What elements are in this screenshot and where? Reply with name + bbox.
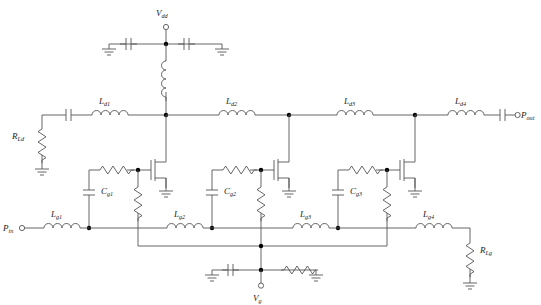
vdd-bias-network: Vdd <box>102 8 229 115</box>
schematic-canvas: Vdd RLd Ld1 Ld2 <box>0 0 541 305</box>
capacitor-cg3 <box>332 184 344 201</box>
ground-vg-left <box>205 270 219 281</box>
capacitor-cg2 <box>206 184 218 201</box>
vdd-terminal-node[interactable] <box>163 24 168 29</box>
pin-label: Pin <box>2 223 13 234</box>
ground-m3-source <box>408 186 422 197</box>
bias-bus-center-node <box>259 244 263 248</box>
inductor-ld2 <box>215 111 259 116</box>
dc-block-cap-output <box>494 109 511 121</box>
dc-block-cap-input <box>60 109 77 121</box>
vdd-label: Vdd <box>156 8 169 19</box>
inductor-lg2 <box>163 224 207 229</box>
drain-artificial-line: RLd Ld1 Ld2 Ld3 Ld4 <box>11 96 535 175</box>
rld-label: RLd <box>11 131 25 142</box>
amplifier-stage-3: Cg3 <box>332 152 422 246</box>
inductor-ld4 <box>444 111 488 116</box>
capacitor-cg1 <box>83 184 95 201</box>
vg-label: Vg <box>253 293 262 304</box>
ld1-label: Ld1 <box>98 96 110 107</box>
ground-vdd-left <box>102 44 116 55</box>
ground-m2-source <box>282 186 296 197</box>
lg4-label: Lg4 <box>422 209 434 220</box>
amplifier-stage-1: Cg1 <box>83 152 173 246</box>
ld2-label: Ld2 <box>225 96 237 107</box>
vg-terminal-node[interactable] <box>258 283 263 288</box>
ld4-label: Ld4 <box>454 96 466 107</box>
transistor-m3 <box>400 152 415 188</box>
rlg-label: RLg <box>479 245 492 256</box>
gate-artificial-line: Pin Lg1 Lg2 Lg3 Lg4 RLg <box>2 209 492 289</box>
ld3-label: Ld3 <box>343 96 355 107</box>
inductor-lg3 <box>289 224 333 229</box>
cg1-label: Cg1 <box>101 186 113 197</box>
ground-rld <box>35 164 49 175</box>
lg1-label: Lg1 <box>50 209 62 220</box>
transistor-m2 <box>274 152 289 188</box>
cg2-label: Cg2 <box>224 186 236 197</box>
pout-label: Pout <box>520 110 535 121</box>
inductor-lg4 <box>412 224 456 229</box>
vg-bias-network: Vg <box>205 264 323 304</box>
circuit-schematic: Vdd RLd Ld1 Ld2 <box>0 0 541 305</box>
inductor-ld3 <box>333 111 377 116</box>
lg3-label: Lg3 <box>299 209 311 220</box>
inductor-ld1 <box>88 111 132 116</box>
gate-bias-bus <box>138 244 387 248</box>
ground-rlg <box>463 278 477 289</box>
inductor-lg1 <box>40 224 84 229</box>
transistor-m1 <box>151 152 166 188</box>
cg3-label: Cg3 <box>350 186 362 197</box>
rf-choke-inductor <box>162 57 167 101</box>
ground-vdd-right <box>215 44 229 55</box>
pin-terminal-node[interactable] <box>19 225 24 230</box>
lg2-label: Lg2 <box>173 209 185 220</box>
amplifier-stage-2: Cg2 <box>206 152 296 270</box>
ground-m1-source <box>159 186 173 197</box>
pout-terminal-node[interactable] <box>515 112 520 117</box>
